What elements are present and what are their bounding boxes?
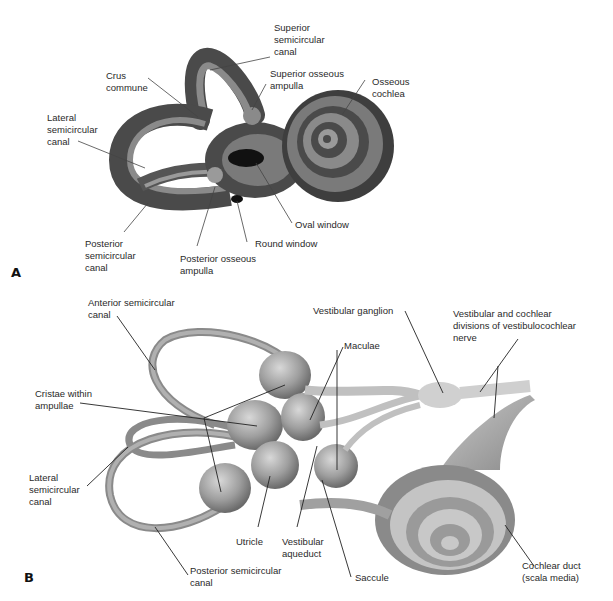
osseous-cochlea-shape: [282, 90, 394, 202]
label-vestibular-ganglion: Vestibular ganglion: [313, 305, 393, 317]
label-crus-commune: Crus commune: [106, 70, 148, 94]
label-cristae-within-ampullae: Cristae within ampullae: [35, 388, 92, 412]
label-vestibular-cochlear-divisions: Vestibular and cochlear divisions of ves…: [453, 308, 576, 344]
cochlear-duct-shape: [375, 465, 515, 575]
label-posterior-semicircular-canal-b: Posterior semicircular canal: [190, 565, 281, 589]
label-maculae: Maculae: [344, 340, 380, 352]
oval-window-shape: [228, 149, 264, 167]
label-posterior-osseous-ampulla: Posterior osseous ampulla: [180, 253, 256, 277]
label-utricle: Utricle: [236, 536, 263, 548]
panel-a-letter: A: [11, 265, 21, 280]
panel-b-letter: B: [24, 570, 34, 585]
label-saccule: Saccule: [355, 572, 389, 584]
label-anterior-semicircular-canal: Anterior semicircular canal: [88, 297, 175, 321]
label-lateral-semicircular-canal-b: Lateral semicircular canal: [29, 472, 80, 508]
label-oval-window: Oval window: [295, 219, 349, 231]
label-posterior-semicircular-canal-a: Posterior semicircular canal: [85, 238, 136, 274]
label-round-window: Round window: [255, 238, 317, 250]
label-superior-semicircular-canal: Superior semicircular canal: [274, 22, 325, 58]
label-lateral-semicircular-canal-a: Lateral semicircular canal: [47, 112, 98, 148]
label-osseous-cochlea: Osseous cochlea: [372, 76, 410, 100]
label-vestibular-aqueduct: Vestibular aqueduct: [282, 536, 324, 560]
label-superior-osseous-ampulla: Superior osseous ampulla: [270, 68, 344, 92]
label-cochlear-duct: Cochlear duct (scala media): [522, 560, 581, 584]
